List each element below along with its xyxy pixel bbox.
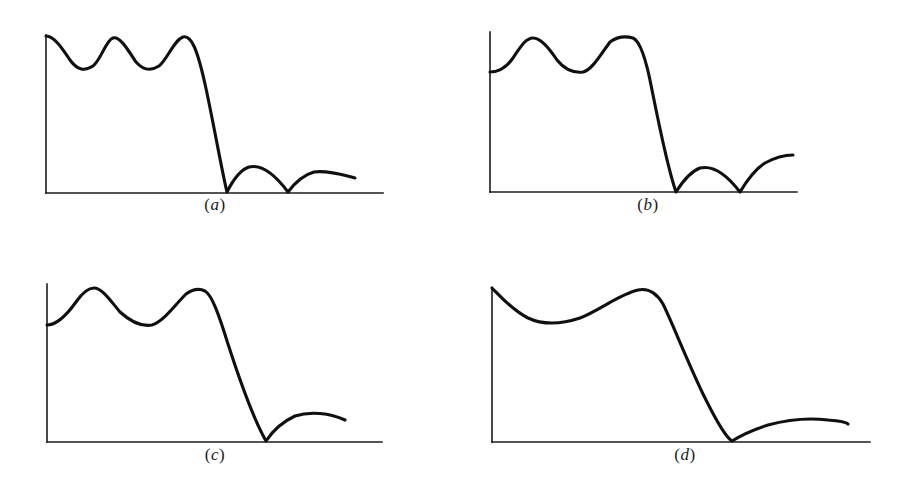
- panel-a-label-close: ): [220, 195, 226, 214]
- panel-c-label-close: ): [219, 445, 225, 464]
- panel-a-label: (a): [180, 195, 250, 215]
- panel-c-label: (c): [180, 445, 250, 465]
- panel-d-label-letter: d: [681, 445, 690, 464]
- panel-b-response-curve: [490, 37, 793, 192]
- panel-b-label: (b): [613, 195, 683, 215]
- panel-c-label-letter: c: [211, 445, 219, 464]
- panel-d-label-close: ): [690, 445, 696, 464]
- panel-d-label: (d): [650, 445, 720, 465]
- panel-a-label-letter: a: [211, 195, 220, 214]
- panel-b-label-close: ): [653, 195, 659, 214]
- panel-b-label-letter: b: [644, 195, 653, 214]
- panel-d-response-curve: [492, 288, 848, 441]
- panel-a-response-curve: [46, 36, 355, 192]
- panel-c-response-curve: [47, 288, 345, 441]
- figure-root: (a) (b) (c) (d): [0, 0, 906, 486]
